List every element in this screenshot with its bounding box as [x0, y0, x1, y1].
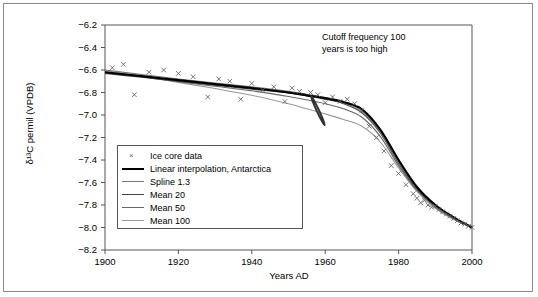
y-tick-label: −6.6: [63, 64, 97, 75]
ice-core-data-point: [147, 70, 152, 75]
legend-item-label: Linear interpolation, Antarctica: [148, 164, 271, 174]
y-axis-label: δ¹³C permil (VPDB): [24, 49, 35, 199]
annotation-line-1: Cutoff frequency 100: [322, 31, 405, 43]
x-marker-icon: ×: [129, 152, 134, 160]
ice-core-data-point: [290, 86, 295, 91]
y-tick-label: −6.4: [63, 42, 97, 53]
legend-line-swatch: [118, 201, 148, 214]
ice-core-data-point: [250, 81, 255, 86]
x-axis-label: Years AD: [105, 270, 473, 281]
x-axis-tick-marks: [105, 250, 472, 254]
ice-core-data-point: [396, 171, 401, 176]
ice-core-data-point: [382, 149, 387, 154]
y-tick-label: −7.2: [63, 132, 97, 143]
x-tick-label: 2000: [452, 256, 492, 267]
legend-item-label: Mean 50: [148, 203, 185, 213]
ice-core-data-point: [389, 163, 394, 168]
line-swatch: [122, 194, 144, 195]
y-tick-label: −8.0: [63, 222, 97, 233]
y-tick-label: −7.8: [63, 199, 97, 210]
legend-item-label: Mean 20: [148, 190, 185, 200]
legend-item-label: Ice core data: [148, 151, 202, 161]
line-swatch: [122, 168, 144, 170]
ice-core-data-point: [161, 68, 166, 73]
legend-line-swatch: [118, 188, 148, 201]
y-tick-label: −8.2: [63, 244, 97, 255]
legend-item[interactable]: Spline 1.3: [118, 175, 302, 188]
x-tick-label: 1960: [305, 256, 345, 267]
legend-item-label: Spline 1.3: [148, 177, 190, 187]
ice-core-data-point: [272, 85, 277, 90]
y-tick-label: −7.0: [63, 109, 97, 120]
ice-core-data-point: [191, 74, 196, 79]
y-tick-label: −6.2: [63, 19, 97, 30]
y-tick-label: −6.8: [63, 87, 97, 98]
x-tick-label: 1920: [158, 256, 198, 267]
ice-core-data-point: [345, 97, 350, 102]
legend-marker-icon: ×: [118, 149, 148, 162]
legend-item[interactable]: Linear interpolation, Antarctica: [118, 162, 302, 175]
ice-core-data-point: [411, 191, 416, 196]
y-tick-label: −7.6: [63, 177, 97, 188]
legend-line-swatch: [118, 162, 148, 175]
ice-core-data-point: [132, 92, 137, 97]
ice-core-data-point: [216, 77, 221, 82]
legend-line-swatch: [118, 175, 148, 188]
legend-line-swatch: [118, 214, 148, 227]
annotation-text: Cutoff frequency 100years is too high: [322, 31, 405, 55]
ice-core-data-point: [374, 135, 379, 140]
chart-legend[interactable]: ×Ice core dataLinear interpolation, Anta…: [117, 145, 303, 229]
legend-item[interactable]: ×Ice core data: [118, 149, 302, 162]
y-axis-tick-marks: [101, 25, 105, 250]
ice-core-data-point: [176, 71, 181, 76]
x-tick-label: 1900: [85, 256, 125, 267]
ice-core-data-point: [110, 65, 115, 70]
x-tick-label: 1940: [232, 256, 272, 267]
ice-core-data-point: [238, 97, 243, 102]
line-swatch: [122, 181, 144, 182]
ice-core-data-point: [415, 196, 420, 201]
ice-core-data-point: [308, 90, 313, 95]
ice-core-data-point: [404, 182, 409, 187]
legend-item[interactable]: Mean 20: [118, 188, 302, 201]
annotation-line-2: years is too high: [322, 43, 405, 55]
ice-core-data-point: [227, 79, 232, 84]
legend-item[interactable]: Mean 50: [118, 201, 302, 214]
ice-core-data-point: [121, 62, 126, 67]
ice-core-data-point: [367, 124, 372, 129]
ice-core-data-point: [205, 95, 210, 100]
legend-item[interactable]: Mean 100: [118, 214, 302, 227]
x-tick-label: 1980: [379, 256, 419, 267]
legend-item-label: Mean 100: [148, 216, 190, 226]
line-swatch: [122, 220, 144, 221]
y-tick-label: −7.4: [63, 154, 97, 165]
line-swatch: [122, 207, 144, 208]
